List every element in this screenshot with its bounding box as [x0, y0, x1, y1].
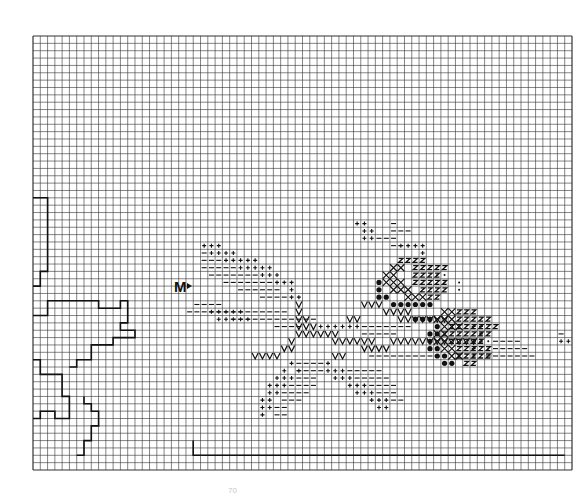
cross-stitch-chart: [0, 0, 584, 503]
center-marker-arrow-icon: [187, 283, 192, 289]
center-marker-label: M: [174, 279, 187, 294]
page-number: 70: [228, 486, 237, 495]
stitch-grid: [33, 36, 572, 470]
stitch-symbols: [187, 222, 570, 417]
